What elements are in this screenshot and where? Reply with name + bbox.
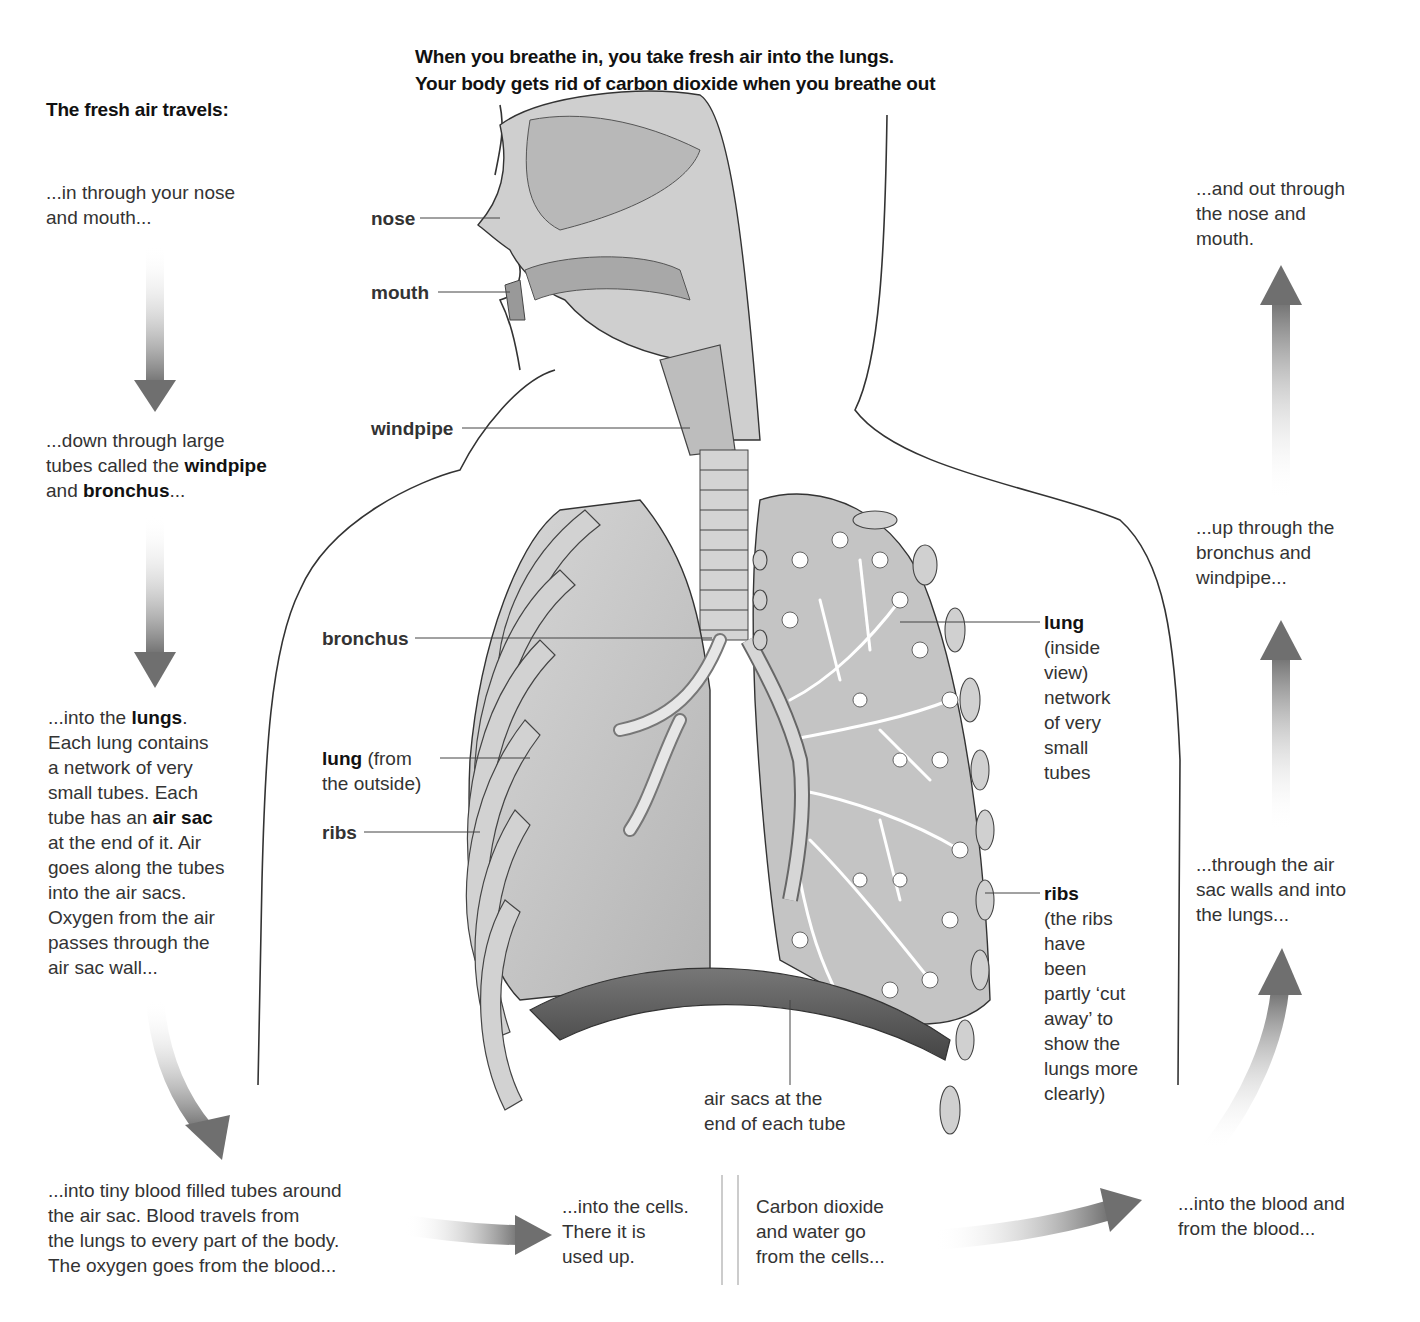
label-text: small	[1044, 735, 1154, 760]
label-text: clearly)	[1044, 1081, 1174, 1106]
step-text-line: the lungs to every part of the body.	[48, 1228, 408, 1253]
label-windpipe: windpipe	[371, 416, 453, 441]
step-text-line: the nose and	[1196, 201, 1396, 226]
step-text-line: ...up through the	[1196, 515, 1396, 540]
label-text: of very	[1044, 710, 1154, 735]
step-text-line: into the air sacs.	[48, 880, 278, 905]
label-text: have	[1044, 931, 1174, 956]
keyword-bronchus: bronchus	[83, 480, 170, 501]
step-text: tube has an	[48, 807, 153, 828]
label-ribs-left: ribs	[322, 820, 357, 845]
label-nose: nose	[371, 206, 415, 231]
step-text-line: Carbon dioxide	[756, 1194, 926, 1219]
heading-line-2: Your body gets rid of carbon dioxide whe…	[415, 70, 935, 97]
label-lung-outside: lung (from the outside)	[322, 746, 421, 796]
step-text-line: ...into tiny blood filled tubes around	[48, 1178, 408, 1203]
keyword-air-sac: air sac	[153, 807, 213, 828]
label-ribs-right: ribs (the ribs have been partly ‘cut awa…	[1044, 881, 1174, 1106]
step-up-bronchus: ...up through the bronchus and windpipe.…	[1196, 515, 1396, 590]
label-lung-inside-title: lung	[1044, 612, 1084, 633]
step-text-line: a network of very	[48, 755, 278, 780]
step-text-line: ...into the blood and	[1178, 1191, 1398, 1216]
step-text-line: and water go	[756, 1219, 926, 1244]
step-text-line: ...down through large	[46, 428, 326, 453]
label-bronchus: bronchus	[322, 626, 409, 651]
label-text: away’ to	[1044, 1006, 1174, 1031]
label-air-sacs: air sacs at the end of each tube	[704, 1086, 884, 1136]
step-text-line: Each lung contains	[48, 730, 278, 755]
step-blood-tubes: ...into tiny blood filled tubes around t…	[48, 1178, 408, 1278]
step-co2-from-cells: Carbon dioxide and water go from the cel…	[756, 1194, 926, 1269]
step-text-line: and mouth...	[46, 205, 306, 230]
label-text: network	[1044, 685, 1154, 710]
step-text-line: mouth.	[1196, 226, 1396, 251]
step-air-sac-walls: ...through the air sac walls and into th…	[1196, 852, 1396, 927]
step-text-line: the lungs...	[1196, 902, 1396, 927]
label-text: tubes	[1044, 760, 1154, 785]
label-text: (from	[362, 748, 412, 769]
label-lung-outside-title: lung	[322, 748, 362, 769]
left-column-title: The fresh air travels:	[46, 96, 229, 123]
step-text-line: ...through the air	[1196, 852, 1396, 877]
step-text-line: passes through the	[48, 930, 278, 955]
step-cells: ...into the cells. There it is used up.	[562, 1194, 722, 1269]
step-text-line: from the cells...	[756, 1244, 926, 1269]
step-text: tubes called the	[46, 455, 184, 476]
step-windpipe-bronchus: ...down through large tubes called the w…	[46, 428, 326, 503]
step-text-line: at the end of it. Air	[48, 830, 278, 855]
step-text-line: windpipe...	[1196, 565, 1396, 590]
step-text-line: used up.	[562, 1244, 722, 1269]
step-text-line: small tubes. Each	[48, 780, 278, 805]
diagram-heading: When you breathe in, you take fresh air …	[415, 43, 935, 97]
label-text: partly ‘cut	[1044, 981, 1174, 1006]
label-text: (the ribs	[1044, 906, 1174, 931]
label-text: view)	[1044, 660, 1154, 685]
step-text: .	[182, 707, 187, 728]
step-text: ...	[170, 480, 186, 501]
step-text-line: ...into the cells.	[562, 1194, 722, 1219]
step-text-line: The oxygen goes from the blood...	[48, 1253, 408, 1278]
label-text: lungs more	[1044, 1056, 1174, 1081]
step-text-line: the air sac. Blood travels from	[48, 1203, 408, 1228]
label-lung-inside: lung (inside view) network of very small…	[1044, 610, 1154, 785]
step-text-line: ...in through your nose	[46, 180, 306, 205]
step-text-line: There it is	[562, 1219, 722, 1244]
step-out-nose-mouth: ...and out through the nose and mouth.	[1196, 176, 1396, 251]
label-ribs-right-title: ribs	[1044, 883, 1079, 904]
label-text: been	[1044, 956, 1174, 981]
step-text: and	[46, 480, 83, 501]
heading-line-1: When you breathe in, you take fresh air …	[415, 43, 935, 70]
label-text: show the	[1044, 1031, 1174, 1056]
step-text: ...into the	[48, 707, 131, 728]
step-text-line: from the blood...	[1178, 1216, 1398, 1241]
step-lungs: ...into the lungs. Each lung contains a …	[48, 705, 278, 980]
step-text-line: ...and out through	[1196, 176, 1396, 201]
label-mouth: mouth	[371, 280, 429, 305]
label-text: air sacs at the	[704, 1086, 884, 1111]
step-into-blood: ...into the blood and from the blood...	[1178, 1191, 1398, 1241]
label-text: (inside	[1044, 635, 1154, 660]
label-text: end of each tube	[704, 1111, 884, 1136]
keyword-lungs: lungs	[131, 707, 182, 728]
step-nose-mouth: ...in through your nose and mouth...	[46, 180, 306, 230]
step-text-line: goes along the tubes	[48, 855, 278, 880]
label-text: the outside)	[322, 771, 421, 796]
step-text-line: Oxygen from the air	[48, 905, 278, 930]
keyword-windpipe: windpipe	[184, 455, 266, 476]
step-text-line: sac walls and into	[1196, 877, 1396, 902]
step-text-line: air sac wall...	[48, 955, 278, 980]
step-text-line: bronchus and	[1196, 540, 1396, 565]
